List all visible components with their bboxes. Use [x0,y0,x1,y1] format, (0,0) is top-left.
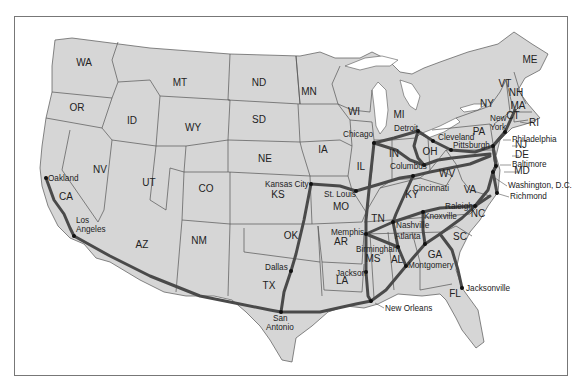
state-label: NH [509,87,523,98]
state-label: FL [449,288,461,299]
city-dot-atlanta [423,242,427,246]
city-dot-richmond [495,191,499,195]
state-label: TX [263,280,276,291]
city-dot-baltimore [494,164,498,168]
state-label: GA [428,249,443,260]
city-label: Angeles [76,225,106,234]
state-label: CO [199,183,214,194]
city-label: Pittsburgh [453,141,490,150]
state-label: OH [423,146,438,157]
city-label: Chicago [343,130,373,139]
state-label: ND [252,77,266,88]
state-label: SD [252,114,266,125]
state-label: AZ [136,239,149,250]
state-label: AR [334,236,348,247]
state-label: MT [173,77,187,88]
city-label: Philadelphia [512,135,557,144]
city-label: Cincinnati [413,184,449,193]
state-label: WA [76,57,92,68]
city-label: Knoxville [424,212,457,221]
city-dot-kansas-city [309,182,313,186]
city-label: Richmond [510,192,547,201]
city-label: Nashville [396,221,430,230]
city-dot-cleveland [431,139,435,143]
city-label: Oakland [48,174,79,183]
city-label: San [273,314,288,323]
state-label: OR [70,102,85,113]
city-label: Raleigh [445,202,473,211]
city-label: Jacksonville [466,284,511,293]
state-label: IN [389,148,399,159]
state-label: IA [318,144,328,155]
city-label: Antonio [266,323,294,332]
city-dot-jacksonville [460,286,464,290]
city-label: New Orleans [385,304,432,313]
city-label: Jackson [336,269,366,278]
state-label: ME [523,54,538,65]
city-dot-chicago [372,141,376,145]
state-label: NM [191,235,207,246]
state-label: SC [453,231,467,242]
city-label: Kansas City [265,180,310,189]
state-label: TN [371,213,384,224]
city-label: Dallas [265,263,288,272]
city-label: Atlanta [395,232,421,241]
city-label: Montgomery [408,261,454,270]
city-label: Baltimore [512,160,547,169]
state-label: NY [480,98,494,109]
state-label: MO [333,201,349,212]
state-label: IL [357,161,366,172]
state-label: PA [473,126,486,137]
state-label: UT [142,177,155,188]
city-dot-memphis [364,232,368,236]
state-label: MI [393,109,404,120]
state-label: WI [348,106,360,117]
city-dot-dallas [289,269,293,273]
state-label: RI [529,117,539,128]
state-label: NC [471,208,485,219]
state-label: MS [366,253,381,264]
city-label: Los [76,216,89,225]
city-dot-new-orleans [369,299,373,303]
city-dot-washington-dc [491,170,495,174]
city-label: York [490,123,507,132]
state-label: ID [127,115,137,126]
state-label: WY [185,122,201,133]
state-label: KS [271,189,285,200]
state-label: WV [439,168,455,179]
state-label: MN [301,86,317,97]
state-label: CT [506,110,519,121]
city-label: Columbus [390,162,427,171]
city-dot-cincinnati [411,174,415,178]
us-map: WA OR CA NV ID MT WY UT CO AZ NM ND SD N… [0,0,582,387]
city-label: Washington, D.C. [508,181,572,190]
city-dot-philadelphia [491,144,495,148]
state-label: VA [464,184,477,195]
city-dot-raleigh [473,204,477,208]
state-label: AL [391,254,404,265]
city-dot-los-angeles [72,234,76,238]
state-label: OK [284,230,299,241]
city-label: New [490,114,506,123]
city-label: Birmingham [356,245,400,254]
city-label: Detroit [394,124,419,133]
state-label: DE [515,149,529,160]
city-label: St. Louis [324,190,356,199]
state-label: CA [59,191,73,202]
state-label: NV [93,164,107,175]
city-label: Memphis [331,228,364,237]
state-label: NE [258,153,272,164]
city-dot-nashville [391,220,395,224]
